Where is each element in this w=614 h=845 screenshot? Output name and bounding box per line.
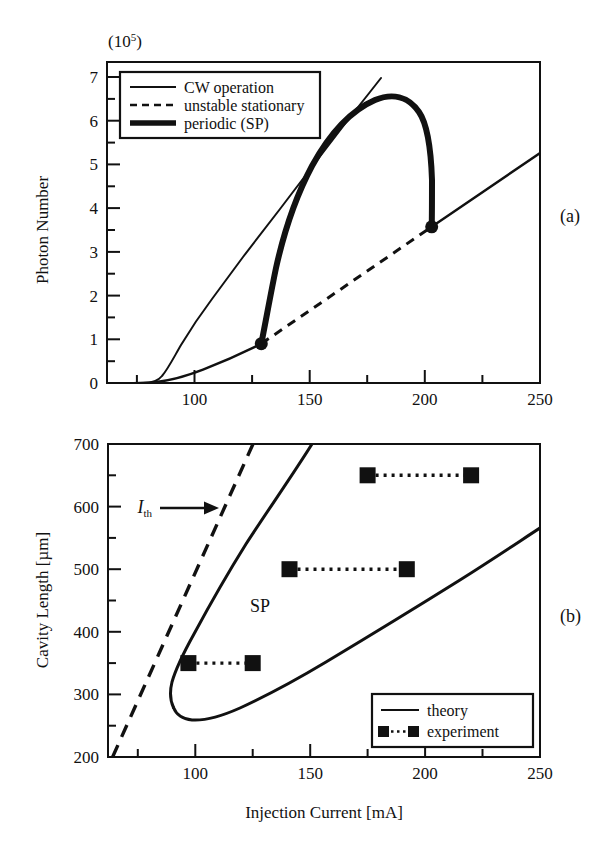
panel-a-ytick-6: 6: [90, 112, 99, 131]
panel-a-ytick-0: 0: [90, 374, 99, 393]
figure-container: (105) 0: [0, 0, 614, 845]
panel-a-xtick-200: 200: [412, 390, 438, 409]
panel-b-ytick-600: 600: [74, 498, 100, 517]
panel-a-scale-note: (105): [108, 31, 142, 51]
panel-b-ytick-200: 200: [74, 748, 100, 767]
legend-label-cw: CW operation: [184, 79, 274, 97]
figure-svg: (105) 0: [0, 0, 614, 845]
panel-b-xtick-250: 250: [527, 764, 553, 783]
panel-a-ytick-7: 7: [90, 68, 99, 87]
legend-label-theory: theory: [427, 702, 468, 720]
legend-label-unstable: unstable stationary: [184, 97, 304, 115]
panel-a-ylabel: Photon Number: [33, 176, 52, 284]
experiment-marker-650-left: [360, 467, 376, 483]
panel-b-xtick-100: 100: [183, 764, 209, 783]
legend-label-periodic: periodic (SP): [184, 115, 269, 133]
panel-a-ytick-1: 1: [90, 330, 99, 349]
legend-swatch-exp-square-left: [378, 726, 389, 737]
experiment-marker-500-right: [399, 561, 415, 577]
shared-xlabel: Injection Current [mA]: [245, 803, 403, 822]
panel-b-ytick-300: 300: [74, 685, 100, 704]
experiment-marker-500-left: [282, 561, 298, 577]
panel-b-ytick-700: 700: [74, 435, 100, 454]
legend-swatch-exp-square-right: [408, 726, 419, 737]
panel-b-ytick-400: 400: [74, 623, 100, 642]
panel-a-ytick-2: 2: [90, 287, 99, 306]
panel-a-xtick-100: 100: [182, 390, 208, 409]
panel-a-xtick-150: 150: [297, 390, 323, 409]
panel-a-ytick-3: 3: [90, 243, 99, 262]
panel-a-ytick-5: 5: [90, 155, 99, 174]
legend-label-experiment: experiment: [427, 723, 500, 741]
panel-a-ytick-4: 4: [90, 199, 99, 218]
panel-a-legend: CW operation unstable stationary periodi…: [120, 72, 320, 138]
panel-b-ylabel: Cavity Length [µm]: [33, 532, 52, 668]
experiment-marker-350-right: [245, 655, 261, 671]
panel-b-xtick-150: 150: [297, 764, 323, 783]
experiment-marker-350-left: [180, 655, 196, 671]
sp-region-label: SP: [250, 596, 270, 616]
experiment-marker-650-right: [463, 467, 479, 483]
panel-b-legend: theory experiment: [372, 694, 533, 747]
panel-b-xtick-200: 200: [412, 764, 438, 783]
panel-b-ytick-500: 500: [74, 560, 100, 579]
scale-note-close: ): [136, 32, 142, 51]
panel-b-label: (b): [560, 606, 581, 627]
panel-a-xtick-250: 250: [527, 390, 553, 409]
panel-a-label: (a): [560, 206, 580, 227]
ith-subscript: th: [143, 507, 152, 519]
scale-note-base: (10: [108, 32, 131, 51]
